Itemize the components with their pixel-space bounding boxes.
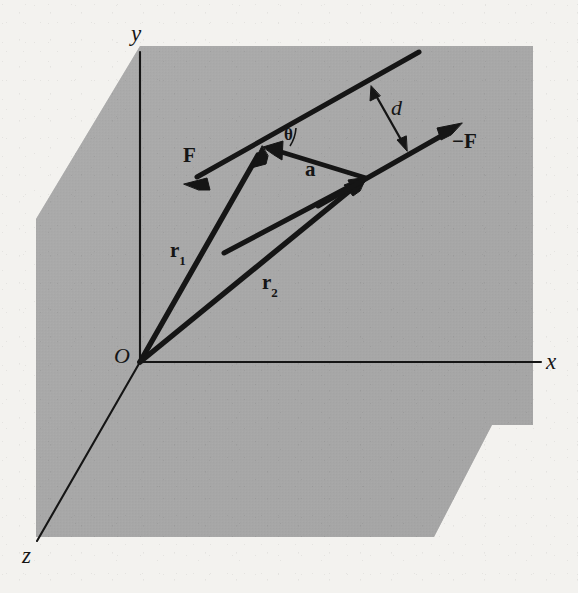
shaded-plane: [36, 46, 533, 537]
distance-d-label: d: [391, 97, 402, 119]
diagram-canvas: [0, 0, 578, 593]
force-label-F: F: [183, 145, 196, 166]
vector-a-label: a: [305, 159, 316, 180]
vector-r1-subscript: 1: [179, 253, 186, 268]
origin-label: O: [114, 345, 130, 367]
angle-theta-label: θ: [284, 126, 293, 143]
vector-r1-label: r1: [170, 240, 186, 263]
z-axis-label: z: [22, 544, 31, 567]
vector-r2-label: r2: [262, 272, 278, 295]
vector-r1-letter: r: [170, 238, 179, 262]
y-axis-label: y: [131, 22, 141, 45]
vector-r2-letter: r: [262, 270, 271, 294]
force-label-negative-F: −F: [452, 131, 477, 152]
vector-diagram-figure: y x z O F −F r1 r2 a θ d: [0, 0, 578, 593]
x-axis-label: x: [546, 350, 556, 373]
vector-r2-subscript: 2: [271, 285, 278, 300]
